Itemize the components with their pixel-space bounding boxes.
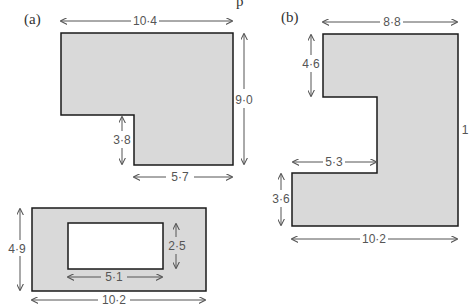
dim-bottom-left-b: 3·6: [272, 192, 290, 206]
dim-notch-a: 3·8: [113, 133, 131, 147]
inner-hole: [68, 223, 163, 269]
header-partial-text: p: [236, 0, 244, 9]
dim-right-partial-b: 1: [462, 123, 469, 137]
dim-right-a: 9·0: [235, 93, 253, 107]
dim-outer-width: 10·2: [102, 293, 126, 306]
part-label-b: (b): [281, 9, 299, 26]
dim-top-left-b: 4·6: [302, 57, 320, 71]
dim-inner-height: 2·5: [168, 239, 186, 253]
figure-a: (a) 10·4 9·0 3·8 5·7: [24, 11, 253, 184]
dim-outer-height: 4·9: [8, 242, 26, 256]
dim-inner-width: 5·1: [105, 270, 123, 284]
dim-bottom-b: 10·2: [362, 232, 386, 246]
dim-bottom-a: 5·7: [171, 170, 189, 184]
dim-top-b: 8·8: [383, 15, 401, 29]
dim-notch-b: 5·3: [325, 155, 343, 169]
figure-b: (b) 8·8 4·6 5·3 3·6 10·2 1: [272, 9, 468, 246]
part-label-a: (a): [24, 11, 41, 28]
diagram-canvas: p (a) 10·4 9·0 3·8 5·7 4·9 2·5: [0, 0, 469, 306]
dim-top-a: 10·4: [133, 14, 157, 28]
l-shape: [61, 33, 233, 165]
figure-rectangle-with-hole: 4·9 2·5 5·1 10·2: [8, 208, 206, 306]
